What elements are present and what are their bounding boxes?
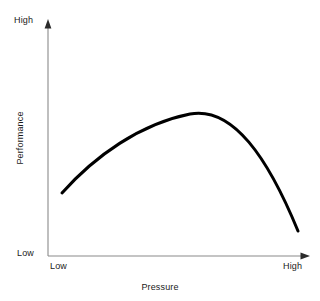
x-axis-low-label: Low — [50, 261, 67, 271]
y-axis-title: Performance — [15, 83, 25, 193]
x-axis-arrow-icon — [301, 253, 311, 260]
x-axis-high-label: High — [283, 261, 302, 271]
y-axis-high-label: High — [14, 15, 33, 25]
performance-curve — [62, 113, 298, 231]
x-axis-title: Pressure — [0, 282, 320, 292]
chart-plot-area — [0, 0, 320, 301]
y-axis-low-label: Low — [17, 248, 34, 258]
chart-container: High Low Low High Pressure Performance — [0, 0, 320, 301]
y-axis-arrow-icon — [45, 19, 52, 29]
